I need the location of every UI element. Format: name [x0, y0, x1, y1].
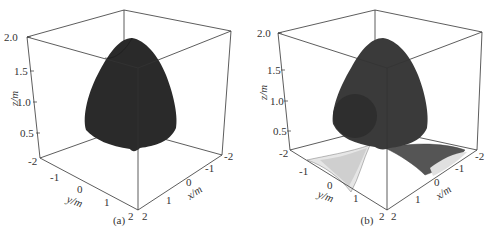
z-tick-2.0-b: 2.0	[257, 27, 271, 39]
z-axis-ticks-b	[278, 33, 291, 131]
y-tick-0: 0	[77, 183, 83, 195]
y-tick-1-b: 1	[353, 192, 359, 204]
x-tick-0-b: 0	[434, 176, 440, 188]
x-tick-2-b: 2	[391, 210, 397, 222]
x-tick--2-b: -2	[475, 150, 484, 162]
y-tick-1: 1	[104, 196, 110, 208]
caption-b: (b)	[347, 214, 387, 226]
plot-3d-b: 2.0 1.5 1.0 0.5 z/m -2 -1 0 1 2 y/m 2 1 …	[245, 0, 489, 239]
x-tick--2: -2	[224, 150, 233, 162]
z-axis-ticks-a	[27, 37, 40, 133]
x-tick--1: -1	[205, 162, 214, 174]
y-tick--2: -2	[28, 155, 37, 167]
z-tick-1.5: 1.5	[14, 65, 28, 77]
x-tick-1-b: 1	[415, 193, 421, 205]
plot-3d-a: 2.0 1.5 1.0 0.5 z/m -2 -1 0 1 2 y/m 2 1 …	[0, 0, 245, 239]
x-tick--1-b: -1	[455, 162, 464, 174]
x-tick-1: 1	[166, 194, 172, 206]
x-tick-2: 2	[142, 210, 148, 222]
z-tick-0.5-b: 0.5	[273, 125, 287, 137]
y-tick--2-b: -2	[279, 147, 288, 159]
z-tick-2.0: 2.0	[4, 31, 18, 43]
z-tick-0.5: 0.5	[20, 127, 34, 139]
y-tick--1-b: -1	[299, 165, 308, 177]
z-axis-label-b: z/m	[257, 85, 269, 101]
z-axis-label-a: z/m	[8, 91, 20, 107]
inner-shadow-region-b	[333, 94, 377, 138]
dome-surface-a	[85, 38, 177, 151]
panel-b: 2.0 1.5 1.0 0.5 z/m -2 -1 0 1 2 y/m 2 1 …	[245, 0, 489, 239]
y-tick-0-b: 0	[327, 179, 333, 191]
panel-a: 2.0 1.5 1.0 0.5 z/m -2 -1 0 1 2 y/m 2 1 …	[0, 0, 245, 239]
caption-a: (a)	[99, 214, 139, 226]
y-tick--1: -1	[50, 171, 59, 183]
z-tick-1.0-b: 1.0	[270, 95, 284, 107]
z-tick-1.5-b: 1.5	[267, 64, 281, 76]
